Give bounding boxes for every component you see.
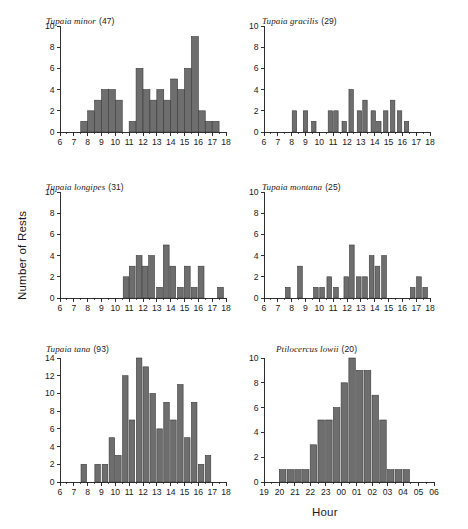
histogram-bar [81, 121, 88, 132]
x-tick-label: 15 [384, 303, 394, 313]
chart-panel-3: 02468106789101112131415161718 [240, 178, 462, 324]
y-tick-label: 8 [254, 208, 259, 218]
x-tick-label: 17 [411, 137, 421, 147]
histogram-bar [191, 402, 197, 482]
x-tick-label: 11 [329, 137, 338, 147]
x-tick-label: 23 [321, 487, 331, 497]
histogram-bar [163, 245, 169, 298]
histogram-bar [150, 100, 157, 132]
y-tick-label: 6 [254, 63, 259, 73]
x-tick-label: 13 [152, 137, 162, 147]
x-tick-label: 14 [370, 303, 380, 313]
y-tick-label: 8 [50, 208, 55, 218]
x-tick-label: 13 [152, 487, 162, 497]
y-tick-label: 12 [45, 371, 55, 381]
histogram-bar [349, 245, 354, 298]
x-tick-label: 17 [411, 303, 421, 313]
x-tick-label: 10 [315, 137, 325, 147]
x-tick-label: 13 [356, 137, 366, 147]
histogram-bar [102, 464, 108, 482]
x-tick-label: 7 [275, 137, 280, 147]
y-tick-label: 0 [50, 127, 55, 137]
histogram-bar [344, 277, 349, 298]
histogram-bar [384, 111, 388, 132]
histogram-bar [417, 277, 422, 298]
x-tick-label: 20 [275, 487, 285, 497]
y-tick-label: 6 [50, 63, 55, 73]
y-tick-label: 4 [254, 427, 259, 437]
x-tick-label: 04 [398, 487, 408, 497]
histogram-bar [298, 266, 303, 298]
x-tick-label: 16 [194, 303, 204, 313]
x-tick-label: 17 [207, 137, 217, 147]
x-tick-label: 12 [342, 137, 352, 147]
histogram-bar [185, 68, 192, 132]
histogram-bar [328, 111, 332, 132]
x-tick-label: 6 [58, 137, 63, 147]
histogram-bar [334, 111, 338, 132]
histogram-bar [395, 470, 401, 482]
x-tick-label: 11 [329, 303, 338, 313]
x-tick-label: 15 [180, 303, 190, 313]
x-tick-label: 6 [58, 487, 63, 497]
histogram-bar [157, 90, 164, 132]
histogram-bar [164, 100, 171, 132]
x-tick-label: 9 [303, 303, 308, 313]
x-tick-label: 00 [336, 487, 346, 497]
x-tick-label: 05 [414, 487, 424, 497]
histogram-bar [102, 90, 109, 132]
y-tick-label: 4 [50, 442, 55, 452]
histogram-bar [363, 100, 367, 132]
histogram-bar [404, 121, 408, 132]
chart-panel-1: 02468106789101112131415161718 [240, 12, 462, 164]
histogram-bar [143, 367, 149, 482]
x-tick-label: 15 [384, 137, 394, 147]
x-tick-label: 12 [138, 303, 148, 313]
histogram-bar [356, 277, 361, 298]
chart-panel-5: 0246810192021222300010203040506 [240, 340, 462, 518]
x-tick-label: 18 [221, 303, 231, 313]
x-tick-label: 7 [71, 137, 76, 147]
y-tick-label: 2 [50, 459, 55, 469]
y-tick-label: 0 [254, 127, 259, 137]
histogram-bar [310, 445, 316, 482]
histogram-bar [295, 470, 301, 482]
x-tick-label: 11 [125, 303, 134, 313]
y-tick-label: 2 [254, 452, 259, 462]
histogram-bar [369, 256, 374, 298]
y-tick-label: 0 [50, 293, 55, 303]
x-tick-label: 10 [315, 303, 325, 313]
histogram-bar [327, 277, 332, 298]
x-tick-label: 18 [425, 137, 435, 147]
y-tick-label: 0 [254, 477, 259, 487]
histogram-bar [109, 438, 115, 482]
histogram-bar [116, 455, 122, 482]
histogram-bar [205, 121, 212, 132]
x-tick-label: 18 [221, 487, 231, 497]
histogram-bar [349, 358, 355, 482]
x-tick-label: 12 [342, 303, 352, 313]
x-tick-label: 17 [207, 303, 217, 313]
x-tick-label: 16 [194, 137, 204, 147]
y-tick-label: 4 [50, 251, 55, 261]
figure-root: Number of Rests Hour Tupaia minor(47)024… [0, 0, 468, 529]
histogram-bar [334, 287, 339, 298]
histogram-bar [397, 111, 401, 132]
x-tick-label: 18 [425, 303, 435, 313]
histogram-bar [357, 370, 363, 482]
histogram-bar [390, 100, 394, 132]
histogram-bar [171, 420, 177, 482]
x-tick-label: 17 [207, 487, 217, 497]
x-tick-label: 8 [85, 303, 90, 313]
y-tick-label: 2 [50, 106, 55, 116]
histogram-bar [198, 111, 205, 132]
histogram-bar [380, 420, 386, 482]
histogram-bar [178, 90, 185, 132]
x-tick-label: 18 [221, 137, 231, 147]
x-tick-label: 6 [58, 303, 63, 313]
y-tick-label: 10 [249, 187, 259, 197]
histogram-bar [320, 287, 325, 298]
histogram-bar [341, 383, 347, 482]
histogram-bar [303, 111, 307, 132]
y-tick-label: 6 [50, 424, 55, 434]
